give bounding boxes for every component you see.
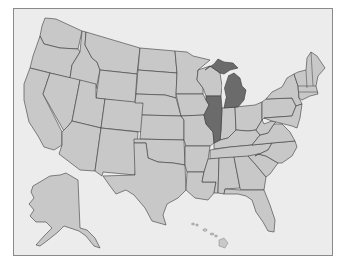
state-north-dakota[interactable] bbox=[138, 48, 177, 73]
state-new-mexico[interactable] bbox=[95, 128, 138, 176]
state-kansas[interactable] bbox=[140, 115, 184, 140]
state-arizona[interactable] bbox=[59, 121, 101, 171]
state-south-dakota[interactable] bbox=[136, 70, 177, 98]
us-map bbox=[0, 0, 346, 271]
state-michigan-lower[interactable] bbox=[224, 73, 246, 108]
state-florida[interactable] bbox=[224, 189, 275, 232]
state-colorado[interactable] bbox=[101, 99, 145, 132]
state-wyoming[interactable] bbox=[96, 70, 137, 103]
state-iowa[interactable] bbox=[176, 94, 209, 116]
state-new-england[interactable] bbox=[294, 52, 325, 100]
state-alaska[interactable] bbox=[29, 173, 100, 248]
state-hawaii[interactable] bbox=[192, 223, 229, 248]
